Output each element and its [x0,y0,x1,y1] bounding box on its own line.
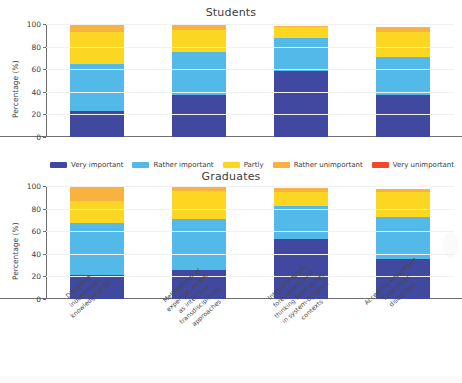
y-axis-tick [43,47,46,48]
bar-segment [172,187,226,190]
y-axis-tick [43,186,46,187]
x-axis-category-labels: Discipline-independentknowledge of SDMet… [46,300,454,380]
bar-segment [172,95,226,137]
y-axis-tick [43,114,46,115]
bar-segment [376,27,430,32]
gridline [46,92,454,93]
y-axis-tick-label: 80 [31,42,41,51]
bar-segment [274,27,328,37]
stacked-bar [376,24,430,137]
y-axis-tick-label: 0 [36,133,41,142]
stacked-bar [70,24,124,137]
legend-swatch-icon [223,162,240,168]
bar-segment [376,189,430,191]
bar-segment [274,38,328,72]
y-axis-tick-label: 40 [31,249,41,258]
stacked-bar-figure: Students Percentage (%) 020406080100 Ver… [0,0,462,383]
chart-legend: Very importantRather importantPartlyRath… [50,157,454,172]
legend-item: Partly [223,161,264,169]
legend-swatch-icon [372,162,389,168]
stacked-bar [172,24,226,137]
y-axis-tick [43,24,46,25]
gridline [46,254,454,255]
bar-segment [274,206,328,239]
bar-segment [172,219,226,270]
bar-segment [376,192,430,217]
y-axis-label-students: Percentage (%) [11,60,20,118]
bar-group-students [46,24,454,137]
gridline [46,186,454,187]
bar-segment [172,25,226,30]
legend-label: Very important [71,161,123,169]
legend-label: Rather important [153,161,213,169]
bar-segment [376,95,430,137]
legend-label: Rather unimportant [294,161,363,169]
chart-title-students: Students [0,6,462,19]
legend-label: Partly [244,161,264,169]
y-axis-tick-label: 20 [31,110,41,119]
bar-segment [376,32,430,57]
legend-swatch-icon [50,162,67,168]
y-axis-tick-label: 80 [31,204,41,213]
bar-segment [70,64,124,111]
bar-segment [376,57,430,95]
y-axis-tick-label: 60 [31,227,41,236]
y-axis-tick [43,69,46,70]
y-axis-tick [43,276,46,277]
legend-item: Very important [50,161,123,169]
y-axis-tick [43,137,46,138]
y-axis-label-graduates: Percentage (%) [11,222,20,280]
gridline [46,69,454,70]
legend-label: Very unimportant [393,161,454,169]
bar-segment [70,186,124,201]
bar-segment [172,52,226,95]
legend-item: Very unimportant [372,161,454,169]
stacked-bar [274,24,328,137]
bar-segment [274,192,328,207]
legend-swatch-icon [273,162,290,168]
gridline [46,47,454,48]
y-axis-tick [43,231,46,232]
legend-swatch-icon [132,162,149,168]
y-axis-tick-label: 100 [27,20,41,29]
y-axis-tick-label: 20 [31,272,41,281]
bar-segment [274,26,328,27]
y-axis-tick-label: 100 [27,182,41,191]
gridline [46,231,454,232]
legend-item: Rather unimportant [273,161,363,169]
gridline [46,209,454,210]
y-axis-tick-label: 60 [31,65,41,74]
legend-item: Rather important [132,161,213,169]
y-axis-tick [43,254,46,255]
bar-segment [274,71,328,137]
bar-segment [70,32,124,64]
bar-segment [70,201,124,224]
gridline [46,24,454,25]
gridline [46,114,454,115]
bar-segment [70,24,124,32]
y-axis-tick-label: 40 [31,87,41,96]
y-axis-tick [43,92,46,93]
y-axis-tick-label: 0 [36,295,41,304]
plot-area-students: 020406080100 [46,24,454,137]
bar-segment [274,188,328,191]
chart-panel-students: Students Percentage (%) 020406080100 [0,6,462,154]
bar-segment [172,30,226,53]
bar-segment [172,191,226,219]
y-axis-tick [43,209,46,210]
